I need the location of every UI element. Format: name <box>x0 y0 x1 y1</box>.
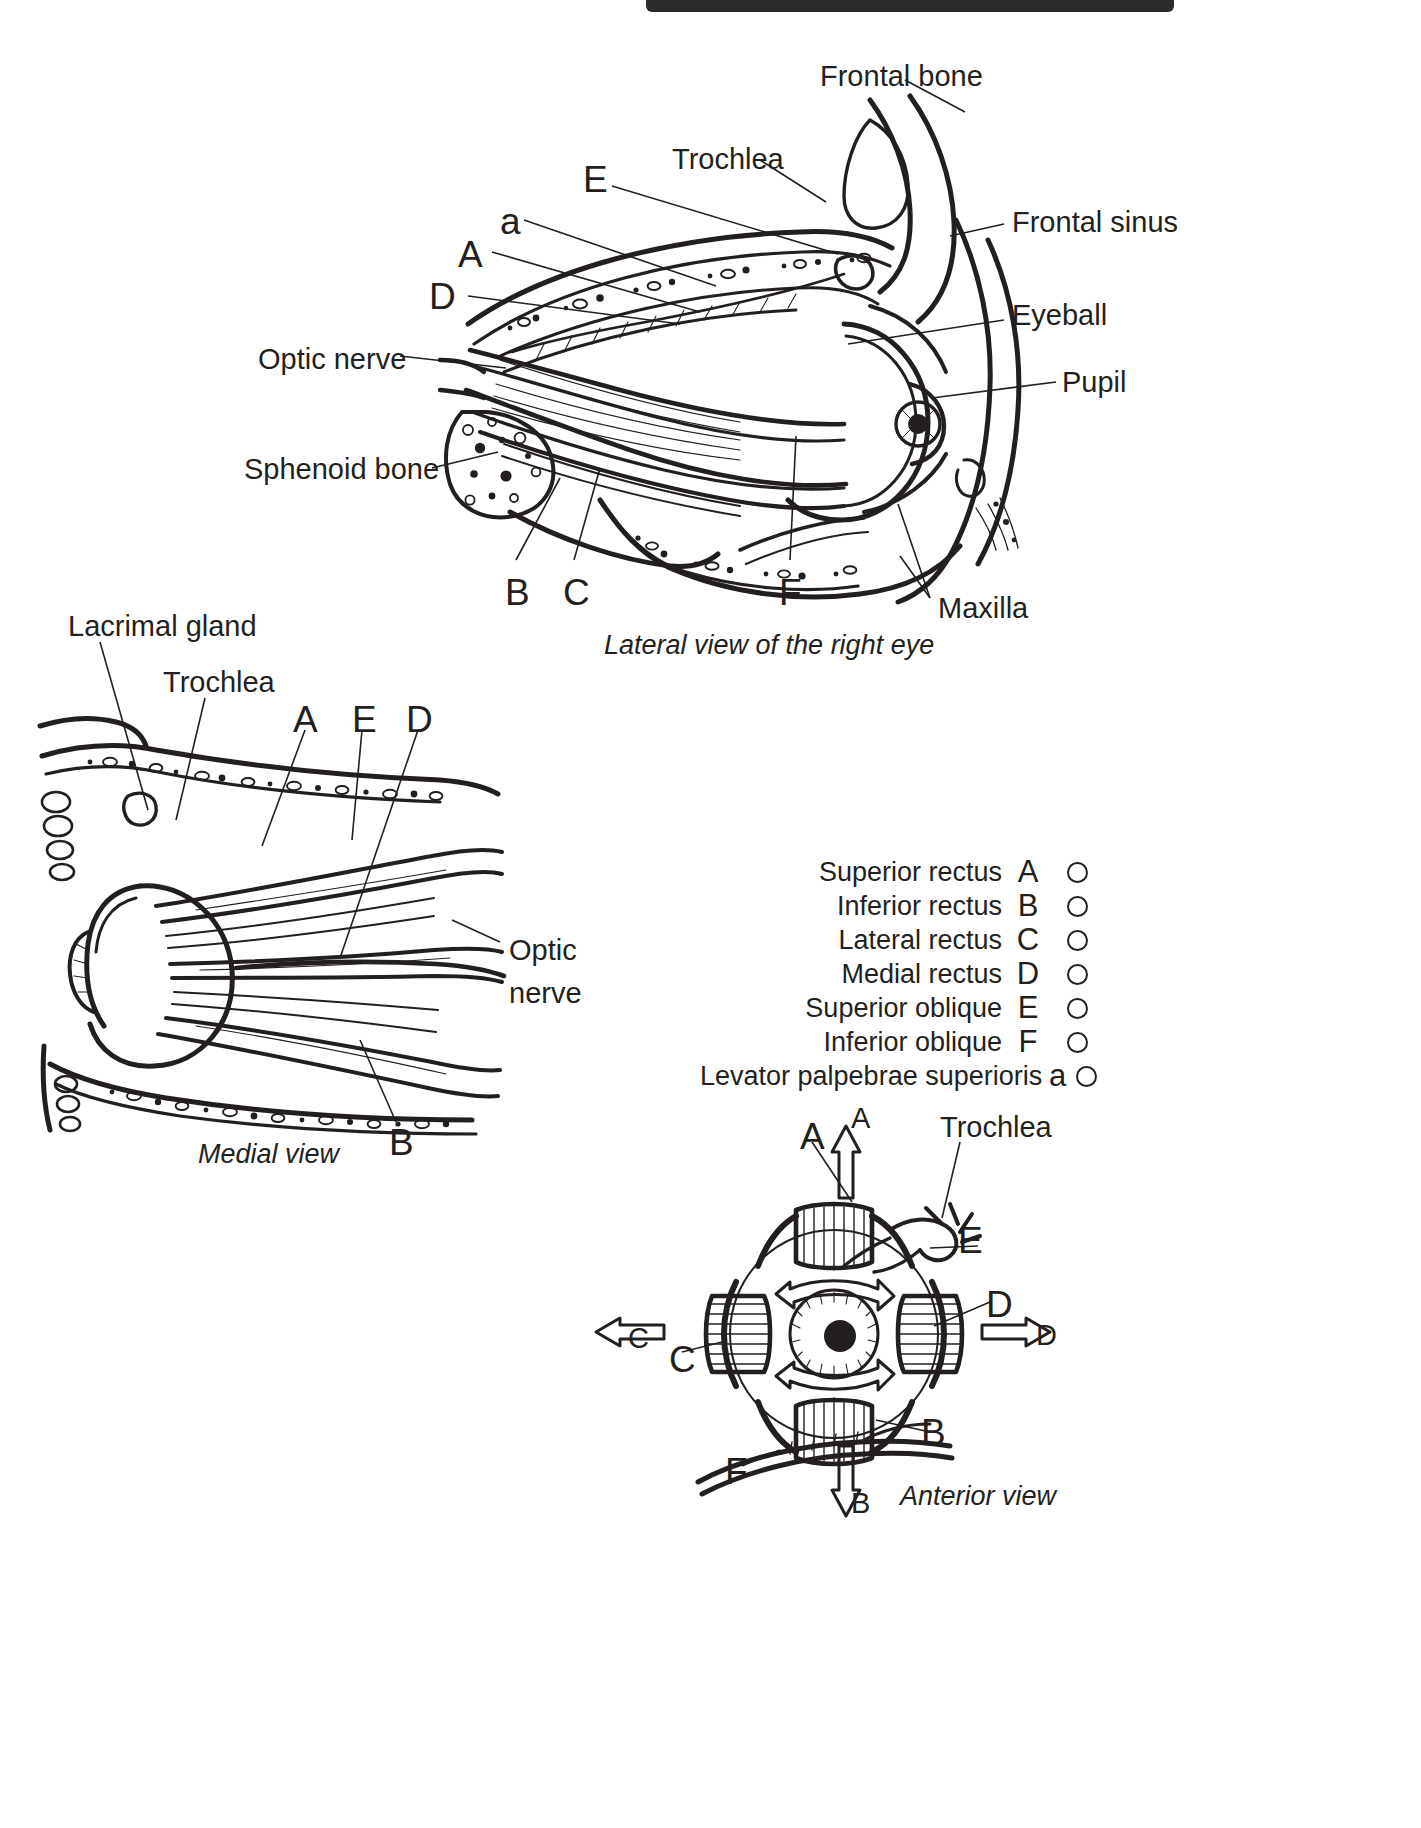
legend-answer-circle[interactable] <box>1054 930 1100 951</box>
anterior-label-b-arrow: B <box>851 1489 870 1518</box>
lateral-label-b: B <box>505 574 530 611</box>
legend-row[interactable]: Superior rectus A <box>700 855 1100 889</box>
legend-row[interactable]: Inferior rectus B <box>700 889 1100 923</box>
legend-answer-circle[interactable] <box>1054 998 1100 1019</box>
lateral-label-d: D <box>429 278 456 315</box>
legend-answer-circle[interactable] <box>1073 1066 1100 1087</box>
muscle-legend-list: Superior rectus A Inferior rectus B Late… <box>700 855 1100 1093</box>
legend-row[interactable]: Inferior oblique F <box>700 1025 1100 1059</box>
legend-answer-circle[interactable] <box>1054 1032 1100 1053</box>
medial-label-lacrimal-gland: Lacrimal gland <box>68 612 257 641</box>
anterior-label-c-arrow: C <box>628 1324 649 1353</box>
medial-label-trochlea: Trochlea <box>163 668 275 697</box>
anterior-label-f: F <box>725 1453 748 1490</box>
anterior-label-c-muscle: C <box>669 1341 696 1378</box>
legend-name: Lateral rectus <box>838 925 1002 956</box>
medial-label-a: A <box>293 701 318 738</box>
lateral-label-frontal-bone: Frontal bone <box>820 62 983 91</box>
legend-row[interactable]: Medial rectus D <box>700 957 1100 991</box>
lateral-label-optic-nerve: Optic nerve <box>258 345 406 374</box>
legend-answer-circle[interactable] <box>1054 862 1100 883</box>
lateral-label-e: E <box>583 161 608 198</box>
lateral-view-caption: Lateral view of the right eye <box>604 630 934 661</box>
medial-label-e: E <box>352 701 377 738</box>
legend-answer-circle[interactable] <box>1054 896 1100 917</box>
legend-letter: A <box>1002 854 1054 890</box>
legend-letter: D <box>1002 956 1054 992</box>
legend-row[interactable]: Lateral rectus C <box>700 923 1100 957</box>
anterior-label-e: E <box>958 1222 983 1259</box>
legend-name: Medial rectus <box>841 959 1002 990</box>
legend-name: Inferior oblique <box>823 1027 1002 1058</box>
lateral-label-trochlea: Trochlea <box>672 145 784 174</box>
legend-row[interactable]: Superior oblique E <box>700 991 1100 1025</box>
anterior-label-b-muscle: B <box>921 1414 946 1451</box>
lateral-label-eyeball: Eyeball <box>1012 301 1107 330</box>
lateral-label-maxilla: Maxilla <box>938 594 1028 623</box>
legend-row[interactable]: Levator palpebrae superioris a <box>700 1059 1100 1093</box>
medial-view-caption: Medial view <box>198 1139 339 1170</box>
anterior-label-trochlea: Trochlea <box>940 1113 1052 1142</box>
anterior-label-a-arrow: A <box>851 1104 870 1133</box>
legend-name: Superior oblique <box>805 993 1002 1024</box>
legend-letter: a <box>1042 1058 1073 1094</box>
legend-name: Inferior rectus <box>837 891 1002 922</box>
anterior-label-d-muscle: D <box>986 1286 1013 1323</box>
legend-letter: F <box>1002 1024 1054 1060</box>
medial-label-nerve: nerve <box>509 979 582 1008</box>
worksheet-page: Frontal bone Trochlea E a A D Frontal si… <box>0 0 1421 1828</box>
legend-name: Superior rectus <box>819 857 1002 888</box>
lateral-label-a-lower: a <box>500 203 521 240</box>
anterior-label-d-arrow: D <box>1036 1321 1057 1350</box>
legend-name: Levator palpebrae superioris <box>700 1061 1042 1092</box>
legend-answer-circle[interactable] <box>1054 964 1100 985</box>
medial-label-optic: Optic <box>509 936 577 965</box>
lateral-label-a: A <box>458 236 483 273</box>
medial-label-b: B <box>389 1124 414 1161</box>
lateral-label-pupil: Pupil <box>1062 368 1127 397</box>
legend-letter: C <box>1002 922 1054 958</box>
legend-letter: E <box>1002 990 1054 1026</box>
lateral-label-f: F <box>779 574 802 611</box>
medial-label-d: D <box>406 701 433 738</box>
anterior-view-caption: Anterior view <box>900 1481 1056 1512</box>
medial-view-leader-lines <box>0 620 640 1180</box>
lateral-label-sphenoid-bone: Sphenoid bone <box>244 455 439 484</box>
lateral-label-frontal-sinus: Frontal sinus <box>1012 208 1178 237</box>
anterior-view-leader-lines <box>590 1090 1090 1540</box>
lateral-label-c: C <box>563 574 590 611</box>
lateral-view-leader-lines <box>0 0 1421 700</box>
legend-letter: B <box>1002 888 1054 924</box>
anterior-label-a-muscle: A <box>800 1118 825 1155</box>
